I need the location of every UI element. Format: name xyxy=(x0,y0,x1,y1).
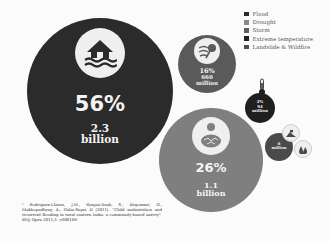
citation-footnote: ¹ Rodriguez-Llanes, J.M., Ranjan-Dash, S… xyxy=(22,202,162,222)
storm-amount: 660 million xyxy=(178,75,236,86)
legend-label: Drought xyxy=(253,19,276,25)
dry-cracked-earth-icon xyxy=(192,117,230,155)
legend-swatch xyxy=(244,45,249,50)
landslide-values: 8 million xyxy=(265,142,293,150)
legend-item-landslide-wildfire: Landslide & Wildfire xyxy=(244,43,313,51)
legend-item-storm: Storm xyxy=(244,26,313,34)
temperature-values: 2% 94 million xyxy=(245,100,275,114)
legend-label: Extreme temperature xyxy=(253,36,313,42)
drought-amount: 1.1 billion xyxy=(159,181,263,197)
flood-amount-unit: billion xyxy=(27,134,173,145)
bubble-storm: 16% 660 million xyxy=(178,35,236,93)
bubble-flood: 56% 2.3 billion xyxy=(27,18,173,164)
legend-label: Landslide & Wildfire xyxy=(253,44,311,50)
landslide-icon xyxy=(282,124,300,142)
bubble-extreme-temperature: 2% 94 million xyxy=(245,93,275,123)
legend-item-extreme-temperature: Extreme temperature xyxy=(244,35,313,43)
drought-percent: 26% xyxy=(159,160,263,175)
legend-swatch xyxy=(244,36,249,41)
legend-swatch xyxy=(244,12,249,17)
landslide-amount-unit: million xyxy=(265,146,293,150)
storm-wind-tree-icon xyxy=(194,38,220,64)
temperature-amount-unit: million xyxy=(245,109,275,114)
legend-label: Storm xyxy=(253,27,270,33)
drought-amount-unit: billion xyxy=(159,189,263,197)
bubble-drought: 26% 1.1 billion xyxy=(159,108,263,212)
flood-percent: 56% xyxy=(27,92,173,116)
flood-amount: 2.3 billion xyxy=(27,123,173,144)
flooded-house-icon xyxy=(75,28,125,78)
storm-amount-unit: million xyxy=(178,81,236,87)
legend-swatch xyxy=(244,28,249,33)
legend-swatch xyxy=(244,20,249,25)
flood-amount-value: 2.3 xyxy=(27,123,173,134)
legend-label: Flood xyxy=(253,11,269,17)
legend-item-flood: Flood xyxy=(244,10,313,18)
legend-item-drought: Drought xyxy=(244,18,313,26)
wildfire-icon xyxy=(294,140,312,158)
chart-legend: Flood Drought Storm Extreme temperature … xyxy=(244,10,313,51)
